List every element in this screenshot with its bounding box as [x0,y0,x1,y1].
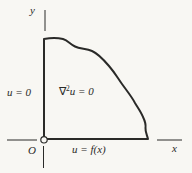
left-boundary-condition: u = 0 [7,87,31,98]
interior-equation: ∇2u = 0 [59,85,94,97]
bottom-boundary-condition: u = f(x) [72,144,106,155]
origin-marker [41,137,47,143]
x-axis-label: x [172,143,177,154]
origin-label: O [28,145,36,156]
laplace-region-figure: y x O u = 0 u = f(x) ∇2u = 0 [0,0,192,173]
nabla-symbol: ∇ [59,85,66,97]
equation-remainder: u = 0 [70,85,94,97]
y-axis-label: y [30,5,35,16]
